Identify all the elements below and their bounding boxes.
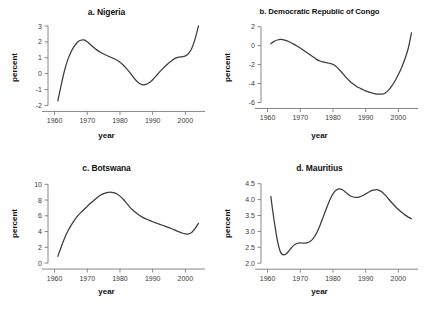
- panel-d-x-tick-label: 1980: [325, 275, 341, 282]
- panel-b-data-line: [271, 33, 412, 94]
- panel-b-y-tick-label: -4: [249, 80, 255, 87]
- panel-b-plot: -6-4-20219601970198019902000: [213, 0, 426, 130]
- panel-d-plot: 2.02.53.03.54.04.519601970198019902000: [213, 156, 426, 286]
- panel-b-x-tick-label: 1990: [358, 114, 374, 121]
- figure-multi-panel-line-charts: a. Nigeria percent -2-101231960197019801…: [0, 0, 427, 313]
- panel-a-y-tick-label: 3: [38, 23, 42, 30]
- panel-c-y-tick-label: 2: [38, 244, 42, 251]
- panel-d-y-tick-label: 3.0: [245, 228, 255, 235]
- panel-a-y-tick-label: 0: [38, 70, 42, 77]
- panel-a-xlabel: year: [0, 131, 213, 140]
- panel-c-y-tick-label: 0: [38, 260, 42, 267]
- panel-c-botswana: c. Botswana percent 02468101960197019801…: [0, 156, 213, 312]
- panel-a-data-line: [58, 26, 199, 101]
- panel-b-x-tick-label: 1980: [325, 114, 341, 121]
- panel-c-x-tick-label: 1970: [79, 275, 95, 282]
- panel-b-y-tick-label: -2: [249, 61, 255, 68]
- panel-d-x-tick-label: 1960: [260, 275, 276, 282]
- panel-d-x-tick-label: 1970: [292, 275, 308, 282]
- panel-b-drc: b. Democratic Republic of Congo percent …: [213, 0, 426, 156]
- panel-a-x-tick-label: 1960: [47, 117, 63, 124]
- panel-b-y-tick-label: -6: [249, 99, 255, 106]
- panel-b-x-tick-label: 2000: [391, 114, 407, 121]
- panel-a-x-tick-label: 1980: [112, 117, 128, 124]
- panel-d-y-tick-label: 3.5: [245, 212, 255, 219]
- panel-d-data-line: [271, 189, 412, 255]
- panel-a-nigeria: a. Nigeria percent -2-101231960197019801…: [0, 0, 213, 156]
- panel-d-mauritius: d. Mauritius percent 2.02.53.03.54.04.51…: [213, 156, 426, 312]
- panel-d-y-tick-label: 4.0: [245, 196, 255, 203]
- panel-c-x-tick-label: 1960: [47, 275, 63, 282]
- panel-d-y-tick-label: 4.5: [245, 180, 255, 187]
- panel-c-y-tick-label: 6: [38, 212, 42, 219]
- panel-b-y-tick-label: 0: [251, 42, 255, 49]
- panel-a-x-tick-label: 1990: [145, 117, 161, 124]
- panel-c-plot: 024681019601970198019902000: [0, 156, 213, 286]
- panel-a-plot: -2-1012319601970198019902000: [0, 0, 213, 130]
- panel-a-y-tick-label: 1: [38, 54, 42, 61]
- panel-b-xlabel: year: [213, 131, 426, 140]
- panel-d-x-tick-label: 1990: [358, 275, 374, 282]
- panel-c-x-tick-label: 1990: [145, 275, 161, 282]
- panel-c-y-tick-label: 10: [34, 181, 42, 188]
- panel-c-x-tick-label: 2000: [178, 275, 194, 282]
- panel-c-y-tick-label: 4: [38, 228, 42, 235]
- panel-a-x-tick-label: 2000: [178, 117, 194, 124]
- panel-d-y-tick-label: 2.0: [245, 260, 255, 267]
- panel-c-x-tick-label: 1980: [112, 275, 128, 282]
- panel-b-x-tick-label: 1960: [260, 114, 276, 121]
- panel-a-y-tick-label: -1: [36, 86, 42, 93]
- panel-d-x-tick-label: 2000: [391, 275, 407, 282]
- panel-c-y-tick-label: 8: [38, 197, 42, 204]
- panel-c-data-line: [58, 192, 199, 256]
- panel-c-xlabel: year: [0, 287, 213, 296]
- panel-d-y-tick-label: 2.5: [245, 244, 255, 251]
- panel-d-xlabel: year: [213, 287, 426, 296]
- panel-b-y-tick-label: 2: [251, 23, 255, 30]
- panel-a-y-tick-label: 2: [38, 38, 42, 45]
- panel-b-x-tick-label: 1970: [292, 114, 308, 121]
- panel-a-y-tick-label: -2: [36, 102, 42, 109]
- panel-a-x-tick-label: 1970: [79, 117, 95, 124]
